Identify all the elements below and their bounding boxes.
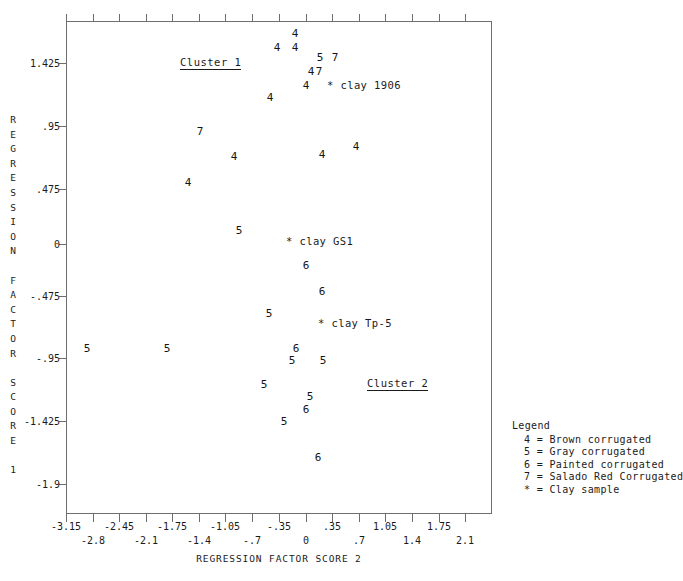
data-point-4: 4 xyxy=(231,151,238,162)
data-point-5: 5 xyxy=(84,343,91,354)
y-axis-title-char: E xyxy=(6,128,20,143)
x-axis-tick-top xyxy=(93,14,94,22)
legend-title: Legend xyxy=(512,420,683,433)
x-axis-tick-label: -3.15 xyxy=(51,521,81,532)
data-point-6: 6 xyxy=(303,404,310,415)
x-axis-tick-top xyxy=(225,14,226,22)
y-axis-tick xyxy=(59,421,67,422)
y-axis-title-char: N xyxy=(6,244,20,259)
legend-entry-clay: * = Clay sample xyxy=(512,484,683,497)
y-axis-title-char: O xyxy=(6,230,20,245)
y-axis-tick-label: .475 xyxy=(36,184,60,195)
x-axis-tick-top xyxy=(146,14,147,22)
x-axis-tick-top xyxy=(252,14,253,22)
x-axis-tick-top xyxy=(66,14,67,22)
x-axis-title: REGRESSION FACTOR SCORE 2 xyxy=(0,553,558,564)
y-axis-title-char: F xyxy=(6,274,20,289)
data-point-7: 7 xyxy=(332,52,339,63)
data-point-4: 4 xyxy=(274,42,281,53)
x-axis-tick-label: 2.1 xyxy=(456,535,474,546)
data-point-6: 6 xyxy=(319,286,326,297)
y-axis-tick xyxy=(59,484,67,485)
data-point-5: 5 xyxy=(317,52,324,63)
x-axis-tick-label: 1.05 xyxy=(373,521,397,532)
legend-entry-4: 4 = Brown corrugated xyxy=(512,434,683,447)
clay-sample-label: * clay Tp-5 xyxy=(318,318,392,329)
data-point-7: 7 xyxy=(197,126,204,137)
y-axis-tick-label: .95 xyxy=(42,121,60,132)
y-axis-title-char: R xyxy=(6,419,20,434)
y-axis-tick xyxy=(59,126,67,127)
x-axis-tick-bottom xyxy=(146,514,147,522)
data-point-5: 5 xyxy=(236,225,243,236)
y-axis-title-char: 1 xyxy=(6,463,20,478)
x-axis-tick-bottom xyxy=(306,514,307,522)
y-axis-title-char: O xyxy=(6,405,20,420)
y-axis-title-char: C xyxy=(6,390,20,405)
x-axis-tick-top xyxy=(412,14,413,22)
x-axis-tick-label: 1.75 xyxy=(427,521,451,532)
legend: Legend 4 = Brown corrugated 5 = Gray cor… xyxy=(512,420,683,497)
x-axis-tick-bottom xyxy=(93,514,94,522)
x-axis-tick-top xyxy=(332,14,333,22)
x-axis-tick-label: -.35 xyxy=(267,521,291,532)
x-axis-tick-top xyxy=(172,14,173,22)
y-axis-tick-label: -1.425 xyxy=(24,416,60,427)
x-axis-tick-label: .35 xyxy=(323,521,341,532)
x-axis-tick-bottom xyxy=(359,514,360,522)
y-axis-title-char: O xyxy=(6,332,20,347)
y-axis-title-char: E xyxy=(6,434,20,449)
data-point-4: 4 xyxy=(185,177,192,188)
y-axis-tick xyxy=(59,358,67,359)
y-axis-title-char: S xyxy=(6,201,20,216)
x-axis-tick-label: .7 xyxy=(353,535,365,546)
y-axis-title-char: T xyxy=(6,317,20,332)
cluster-annotation: Cluster 1 xyxy=(180,56,241,70)
data-point-6: 6 xyxy=(293,343,300,354)
x-axis-tick-top xyxy=(279,14,280,22)
y-axis-title-char: S xyxy=(6,186,20,201)
data-point-6: 6 xyxy=(315,452,322,463)
data-point-4: 4 xyxy=(267,92,274,103)
x-axis-tick-top xyxy=(385,14,386,22)
x-axis-tick-label: -.7 xyxy=(243,535,261,546)
x-axis-tick-label: -1.4 xyxy=(187,535,211,546)
data-point-5: 5 xyxy=(307,391,314,402)
x-axis-tick-bottom xyxy=(465,514,466,522)
data-point-6: 6 xyxy=(303,260,310,271)
y-axis-tick-label: 1.425 xyxy=(30,58,60,69)
data-point-4: 4 xyxy=(303,80,310,91)
y-axis-title-char: C xyxy=(6,303,20,318)
data-point-4: 4 xyxy=(319,149,326,160)
x-axis-tick-label: -2.8 xyxy=(81,535,105,546)
x-axis-tick-label: -1.05 xyxy=(210,521,240,532)
legend-entry-7: 7 = Salado Red Corrugated xyxy=(512,471,683,484)
y-axis-tick xyxy=(59,189,67,190)
data-point-4: 4 xyxy=(292,42,299,53)
data-point-4: 4 xyxy=(292,28,299,39)
data-point-7: 7 xyxy=(316,66,323,77)
x-axis-tick-top xyxy=(359,14,360,22)
y-axis-title-char: I xyxy=(6,215,20,230)
legend-entry-5: 5 = Gray corrugated xyxy=(512,446,683,459)
x-axis-tick-label: -2.45 xyxy=(104,521,134,532)
x-axis-tick-top xyxy=(119,14,120,22)
clay-sample-label: * clay GS1 xyxy=(286,236,353,247)
x-axis-tick-top xyxy=(199,14,200,22)
y-axis-title-char: E xyxy=(6,171,20,186)
x-axis-tick-bottom xyxy=(199,514,200,522)
x-axis-tick-top xyxy=(439,14,440,22)
data-point-5: 5 xyxy=(281,416,288,427)
data-point-5: 5 xyxy=(289,355,296,366)
y-axis-tick-label: -.475 xyxy=(30,291,60,302)
x-axis-tick-label: 1.4 xyxy=(403,535,421,546)
y-axis-title-char: R xyxy=(6,157,20,172)
data-point-4: 4 xyxy=(308,66,315,77)
y-axis-title-char: S xyxy=(6,376,20,391)
legend-entry-6: 6 = Painted corrugated xyxy=(512,459,683,472)
y-axis-tick-label: 0 xyxy=(54,239,60,250)
y-axis-tick xyxy=(59,296,67,297)
y-axis-title: REGRESSION.FACTOR.SCORE.1 xyxy=(6,113,20,478)
clay-sample-label: * clay 1906 xyxy=(327,80,401,91)
